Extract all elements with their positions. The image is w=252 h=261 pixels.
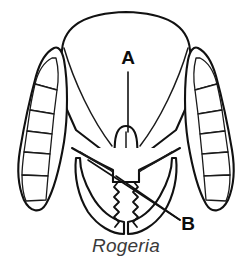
ant-head-illustration: A B xyxy=(0,0,252,261)
figure-container: A B Rogeria xyxy=(0,0,252,261)
label-b-text: B xyxy=(181,213,195,234)
label-a-text: A xyxy=(121,47,135,68)
right-antenna xyxy=(185,48,234,211)
figure-caption: Rogeria xyxy=(0,235,252,257)
clypeal-margin xyxy=(72,148,180,182)
left-antenna xyxy=(18,48,67,211)
